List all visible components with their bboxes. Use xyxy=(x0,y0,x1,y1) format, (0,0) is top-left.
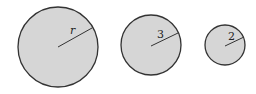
radius-label: 3 xyxy=(157,28,164,41)
circle-2: 2 xyxy=(205,25,245,65)
circle-3: 3 xyxy=(121,15,181,75)
radius-label: 2 xyxy=(228,30,235,43)
circles-diagram: r 3 2 xyxy=(0,0,256,94)
circle-r: r xyxy=(18,7,98,87)
radius-label: r xyxy=(70,24,76,37)
